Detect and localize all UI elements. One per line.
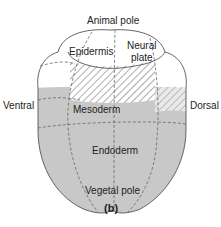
dorsal-label: Dorsal: [190, 100, 219, 111]
epidermis-label: Epidermis: [69, 46, 113, 57]
neural-label: Neural: [127, 40, 156, 51]
vegetal-pole-label: Vegetal pole: [85, 185, 140, 196]
figure-label: (b): [104, 203, 118, 214]
plate-label: plate: [131, 52, 153, 63]
ventral-label: Ventral: [3, 100, 34, 111]
mesoderm-label: Mesoderm: [73, 104, 120, 115]
endoderm-label: Endoderm: [92, 145, 138, 156]
animal-pole-label: Animal pole: [87, 15, 139, 26]
hatched-region: [70, 60, 155, 103]
